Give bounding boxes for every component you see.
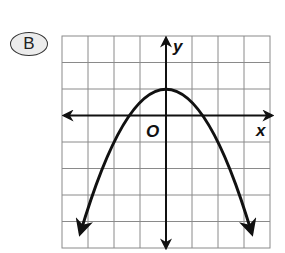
x-axis-label: x (255, 121, 267, 140)
origin-label: O (146, 122, 159, 141)
coordinate-graph: y x O (0, 0, 285, 253)
y-axis-label: y (172, 37, 184, 56)
